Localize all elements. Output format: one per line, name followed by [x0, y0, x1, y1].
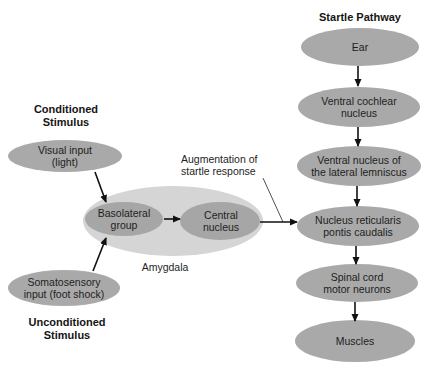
label-line: input (foot shock)	[8, 288, 120, 300]
ventral-cochlear-label: Ventral cochlear nucleus	[298, 95, 420, 119]
label-line: Central	[185, 209, 257, 221]
label-line: Basolateral	[88, 207, 160, 219]
diagram-canvas	[0, 0, 431, 369]
label-line: Spinal cord	[296, 271, 418, 283]
label-line: Nucleus reticularis	[297, 214, 419, 226]
reticularis-label: Nucleus reticularis pontis caudalis	[297, 214, 419, 238]
ear-label: Ear	[301, 41, 419, 53]
label-line: Somatosensory	[8, 276, 120, 288]
heading-line: Conditioned	[22, 103, 110, 116]
augmentation-annotation: Augmentation of startle response	[181, 153, 257, 177]
annotation-line: startle response	[181, 165, 257, 177]
lateral-lemniscus-label: Ventral nucleus of the lateral lemniscus	[297, 154, 421, 178]
amygdala-label: Amygdala	[125, 261, 205, 273]
unconditioned-stimulus-heading: Unconditioned Stimulus	[17, 316, 117, 342]
label-line: pontis caudalis	[297, 226, 419, 238]
arrow-visual-to-basolateral	[95, 172, 106, 202]
label-line: group	[88, 219, 160, 231]
label-line: Visual input	[15, 144, 115, 156]
heading-line: Stimulus	[22, 116, 110, 129]
somatosensory-input-label: Somatosensory input (foot shock)	[8, 276, 120, 300]
annotation-leader-line	[263, 178, 283, 222]
label-line: Ventral nucleus of	[297, 154, 421, 166]
central-nucleus-label: Central nucleus	[185, 209, 257, 233]
visual-input-label: Visual input (light)	[15, 144, 115, 168]
startle-pathway-heading: Startle Pathway	[300, 11, 420, 24]
arrow-somatosensory-to-basolateral	[93, 238, 106, 271]
label-line: the lateral lemniscus	[297, 166, 421, 178]
heading-line: Stimulus	[17, 329, 117, 342]
muscles-label: Muscles	[295, 335, 415, 347]
heading-line: Unconditioned	[17, 316, 117, 329]
label-line: nucleus	[185, 221, 257, 233]
label-line: (light)	[15, 156, 115, 168]
label-line: Ventral cochlear	[298, 95, 420, 107]
conditioned-stimulus-heading: Conditioned Stimulus	[22, 103, 110, 129]
basolateral-group-label: Basolateral group	[88, 207, 160, 231]
spinal-cord-label: Spinal cord motor neurons	[296, 271, 418, 295]
label-line: motor neurons	[296, 283, 418, 295]
annotation-line: Augmentation of	[181, 153, 257, 165]
label-line: nucleus	[298, 107, 420, 119]
